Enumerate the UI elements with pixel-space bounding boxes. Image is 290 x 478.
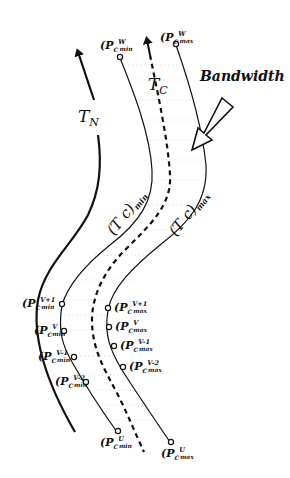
marker-max-vm1 (111, 343, 116, 348)
label-max-vm1: (PCV-1max (120, 338, 153, 353)
tc-arrow (147, 40, 150, 55)
tc-label: TC (148, 74, 168, 97)
tn-arrow (78, 52, 94, 100)
label-max-v: (PCVmax (115, 319, 148, 334)
bandwidth-label: Bandwidth (199, 68, 285, 84)
label-min-top: (PCWmin (100, 38, 133, 53)
marker-max-bottom (168, 439, 173, 444)
marker-min-bottom (115, 428, 120, 433)
marker-min-vm1 (71, 354, 76, 359)
tc-dashed-curve (92, 55, 170, 452)
trajectory-bandwidth-diagram: TN TC Bandwidth (T c)min (T c)max (PCWmi… (0, 0, 290, 478)
tc-max-curve (107, 45, 206, 442)
bandwidth-arrow-icon (192, 98, 233, 150)
label-min-vm2: (PCV-2min (55, 374, 87, 389)
tc-max-label: (T c)max (165, 186, 213, 240)
marker-min-top (117, 54, 122, 59)
label-max-vm2: (PCV-2max (129, 359, 162, 374)
label-max-v1: (PCV+1max (114, 300, 148, 315)
label-max-top: (PCWmax (160, 30, 194, 45)
marker-min-v1 (59, 301, 64, 306)
marker-max-vm2 (120, 364, 125, 369)
marker-max-v1 (105, 305, 110, 310)
label-min-vm1: (PCV-1min (38, 349, 70, 364)
tn-label: TN (78, 106, 99, 129)
marker-max-v (106, 324, 111, 329)
label-min-bottom: (PCUmin (100, 435, 132, 450)
label-max-bottom: (PCUmax (161, 446, 194, 461)
